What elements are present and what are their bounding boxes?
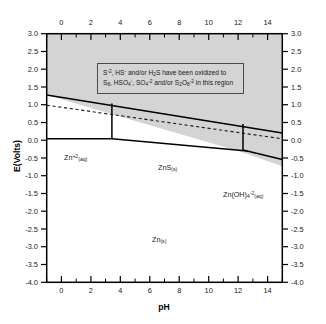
xaxis-top-tick-label-10: 10 <box>199 19 219 26</box>
xaxis-title: pH <box>134 302 194 312</box>
xaxis-bottom-tick-label-0: 0 <box>51 287 71 294</box>
xaxis-top-tick-label-12: 12 <box>228 19 248 26</box>
xaxis-bottom-tick-label-10: 10 <box>199 287 219 294</box>
yaxis-right-tick-label-1.5: 1.5 <box>291 84 315 91</box>
xaxis-top-tick-label-8: 8 <box>169 19 189 26</box>
xaxis-top-tick-label-14: 14 <box>258 19 278 26</box>
region-label-zinc-metal: Zn(s) <box>152 235 166 244</box>
yaxis-right-tick-label-0.5: 0.5 <box>291 119 315 126</box>
xaxis-top-tick-label-0: 0 <box>51 19 71 26</box>
yaxis-right-tick-label-3.0: 3.0 <box>291 30 315 37</box>
yaxis-left-tick-label--2.0: -2.0 <box>14 208 38 215</box>
yaxis-title: E(Volts) <box>12 121 22 191</box>
region-label-zinc-sulfide: ZnS(s) <box>158 163 177 172</box>
oxidized-sulfur-annotation-box: S-2, HS- and/or H2S have been oxidized t… <box>97 63 244 94</box>
yaxis-left-tick-label-2.0: 2.0 <box>14 66 38 73</box>
xaxis-top-tick-label-4: 4 <box>110 19 130 26</box>
yaxis-left-ticks <box>41 34 47 283</box>
yaxis-left-tick-label-1.0: 1.0 <box>14 101 38 108</box>
xaxis-top-tick-label-6: 6 <box>140 19 160 26</box>
xaxis-bottom-tick-label-2: 2 <box>81 287 101 294</box>
xaxis-bottom-tick-label-12: 12 <box>228 287 248 294</box>
yaxis-left-tick-label-1.5: 1.5 <box>14 84 38 91</box>
region-label-zincate-aqueous: Zn(OH)4-2(aq) <box>223 190 263 199</box>
yaxis-right-tick-label--1.5: -1.5 <box>291 190 315 197</box>
yaxis-right-tick-label--2.0: -2.0 <box>291 208 315 215</box>
xaxis-bottom-tick-label-6: 6 <box>140 287 160 294</box>
xaxis-bottom-tick-label-4: 4 <box>110 287 130 294</box>
yaxis-right-tick-label--4.0: -4.0 <box>291 279 315 286</box>
region-label-zn2-aqueous: Zn+2(aq) <box>64 153 87 162</box>
yaxis-right-tick-label--3.5: -3.5 <box>291 261 315 268</box>
yaxis-right-ticks <box>282 34 288 283</box>
yaxis-right-tick-label--0.5: -0.5 <box>291 155 315 162</box>
yaxis-right-tick-label-1.0: 1.0 <box>291 101 315 108</box>
yaxis-left-tick-label--1.5: -1.5 <box>14 190 38 197</box>
yaxis-left-tick-label--3.0: -3.0 <box>14 243 38 250</box>
xaxis-top-tick-label-2: 2 <box>81 19 101 26</box>
annotation-line-2: S8, HSO4-, SO4-2 and/or S2O8-2 in this r… <box>103 78 238 89</box>
yaxis-left-tick-label--2.5: -2.5 <box>14 226 38 233</box>
xaxis-bottom-tick-label-8: 8 <box>169 287 189 294</box>
yaxis-right-tick-label--3.0: -3.0 <box>291 243 315 250</box>
yaxis-right-tick-label-0.0: 0.0 <box>291 137 315 144</box>
yaxis-right-tick-label--1.0: -1.0 <box>291 172 315 179</box>
yaxis-right-tick-label-2.0: 2.0 <box>291 66 315 73</box>
yaxis-left-tick-label-3.0: 3.0 <box>14 30 38 37</box>
yaxis-left-tick-label--4.0: -4.0 <box>14 279 38 286</box>
yaxis-left-tick-label--3.5: -3.5 <box>14 261 38 268</box>
chart-canvas <box>0 0 326 324</box>
yaxis-right-tick-label-2.5: 2.5 <box>291 48 315 55</box>
annotation-line-1: S-2, HS- and/or H2S have been oxidized t… <box>103 68 238 79</box>
xaxis-bottom-tick-label-14: 14 <box>258 287 278 294</box>
yaxis-left-tick-label-2.5: 2.5 <box>14 48 38 55</box>
yaxis-right-tick-label--2.5: -2.5 <box>291 226 315 233</box>
pourbaix-diagram-figure: 0 2 4 6 8 10 12 14 0 2 4 6 8 10 12 14 3.… <box>0 0 326 324</box>
